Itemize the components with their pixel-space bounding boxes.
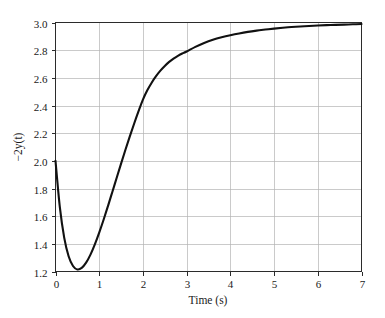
x-tick-label: 6 — [316, 278, 322, 290]
x-tick-label: 7 — [360, 278, 366, 290]
y-tick-label: 2.4 — [34, 101, 48, 113]
y-tick-label: 1.6 — [34, 211, 48, 223]
x-tick-label: 4 — [228, 278, 234, 290]
x-tick-label: 5 — [272, 278, 278, 290]
chart-figure: 01234567 1.21.41.61.82.02.22.42.62.83.0 … — [0, 0, 385, 318]
y-tick-label: 2.0 — [34, 156, 48, 168]
y-tick-label: 1.4 — [34, 239, 48, 251]
y-tick-label: 1.8 — [34, 184, 48, 196]
x-tick-label: 2 — [141, 278, 147, 290]
y-tick-label: 3.0 — [34, 18, 48, 30]
x-tick-label: 3 — [185, 278, 191, 290]
y-tick-label: 2.2 — [34, 128, 48, 140]
y-tick-label: 2.6 — [34, 73, 48, 85]
y-tick-label: 2.8 — [34, 45, 48, 57]
y-tick-label: 1.2 — [34, 267, 48, 279]
x-tick-label: 0 — [54, 278, 60, 290]
x-axis-title: Time (s) — [189, 294, 228, 307]
line-chart-svg: 01234567 1.21.41.61.82.02.22.42.62.83.0 … — [0, 0, 385, 318]
y-axis-title: −2y(t) — [12, 132, 25, 161]
x-tick-label: 1 — [97, 278, 103, 290]
